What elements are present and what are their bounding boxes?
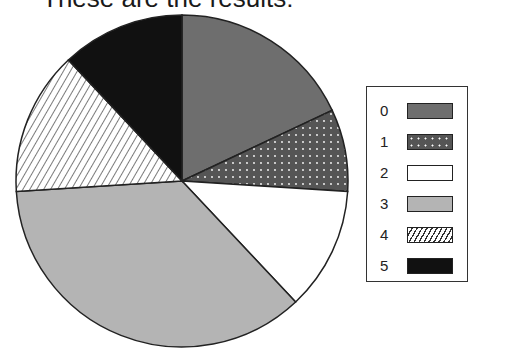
legend-label: 2 xyxy=(380,164,388,181)
legend-swatch xyxy=(407,196,453,212)
legend-swatch xyxy=(407,103,453,119)
legend-label: 4 xyxy=(380,226,388,243)
legend-item-5: 5 xyxy=(367,256,467,276)
legend-swatch xyxy=(407,165,453,181)
legend: 0 1 2 3 4 5 xyxy=(366,86,468,282)
legend-label: 5 xyxy=(380,257,388,274)
legend-label: 3 xyxy=(380,195,388,212)
legend-swatch xyxy=(407,258,453,274)
legend-label: 0 xyxy=(380,102,388,119)
legend-label: 1 xyxy=(380,133,388,150)
legend-swatch xyxy=(407,134,453,150)
pie-slices xyxy=(16,15,348,347)
legend-item-2: 2 xyxy=(367,163,467,183)
legend-item-1: 1 xyxy=(367,132,467,152)
legend-swatch xyxy=(407,227,453,243)
legend-item-3: 3 xyxy=(367,194,467,214)
legend-item-4: 4 xyxy=(367,225,467,245)
legend-item-0: 0 xyxy=(367,101,467,121)
